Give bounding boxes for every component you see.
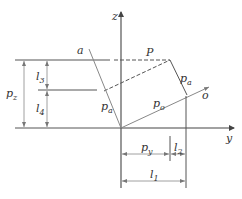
- l3-label: l3: [36, 70, 45, 85]
- y-axis-label: y: [225, 132, 233, 145]
- pa-right-label: pa: [180, 72, 192, 87]
- pa-left-label: pa: [101, 100, 113, 115]
- l4-label: l4: [36, 102, 45, 117]
- l1-label: l1: [150, 168, 159, 183]
- ray-o-label: o: [202, 89, 209, 102]
- pz-label: pz: [6, 87, 18, 102]
- point-p-label: P: [145, 46, 154, 59]
- ray-a: [89, 49, 121, 128]
- ray-o: [121, 87, 209, 128]
- po-label: po: [153, 97, 165, 112]
- py-label: py: [141, 141, 153, 156]
- ray-a-label: a: [77, 44, 84, 57]
- diagram-canvas: z y P a o pa pa po pz l3 l4 py l2 l1: [0, 0, 242, 199]
- z-axis-label: z: [111, 10, 118, 23]
- kinematics-diagram: z y P a o pa pa po pz l3 l4 py l2 l1: [0, 0, 242, 199]
- l2-label: l2: [174, 141, 183, 156]
- pa-parallel-dashed-line: [104, 60, 170, 91]
